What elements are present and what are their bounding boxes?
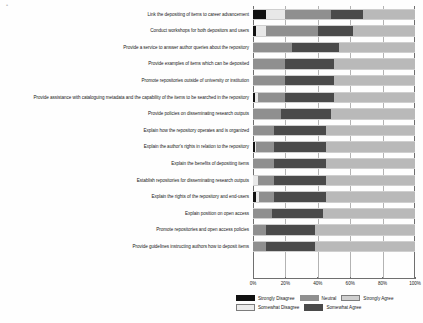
category-label: Promote repositories and open access pol… [0,227,253,232]
bar-segment-sa [315,225,415,234]
category-label: Link the depositing of items to career a… [0,12,253,17]
chart-row: Conduct workshops for both depositors an… [0,23,423,40]
x-axis: 0%20%40%60%80%100% [253,278,415,289]
likert-stacked-bar-chart: • Link the depositing of items to career… [0,0,423,323]
bar-track [253,191,415,202]
x-tick-label: 20% [281,281,290,286]
legend-item[interactable]: Neutral [300,295,337,301]
bar-segment-sa [334,76,415,85]
bar-track [253,224,415,235]
x-tick-label: 40% [313,281,322,286]
bar-segment-sa [334,59,415,68]
bar-segment-swa [266,242,315,251]
bar-segment-n [253,59,285,68]
chart-row: Explain the author's rights in relation … [0,139,423,156]
bar-segment-sa [334,93,415,102]
category-label: Provide a service to answer author queri… [0,45,253,50]
chart-row: Establish repositories for disseminating… [0,172,423,189]
bar-segment-swd [266,10,285,19]
chart-row: Link the depositing of items to career a… [0,6,423,23]
x-tick-label: 100% [409,281,421,286]
bar-segment-sa [326,142,415,151]
bar-segment-sa [326,176,415,185]
bar-segment-swa [292,43,339,52]
chart-row: Provide policies on disseminating resear… [0,106,423,123]
category-label: Establish repositories for disseminating… [0,178,253,183]
category-label: Explain the author's rights in relation … [0,144,253,149]
chart-row: Promote repositories and open access pol… [0,222,423,239]
legend-item[interactable]: Somewhat Agree [304,304,361,310]
category-label: Explain position on open access [0,211,253,216]
x-tick-label: 80% [378,281,387,286]
bar-track [253,92,415,103]
bar-segment-swa [281,109,331,118]
category-label: Promote repositories outside of universi… [0,78,253,83]
bar-track [253,25,415,36]
legend-item[interactable]: Strongly Agree [341,295,393,301]
bar-segment-n [258,176,274,185]
bar-segment-swa [274,142,326,151]
category-label: Explain the benefits of depositing items [0,161,253,166]
bar-track [253,42,415,53]
legend-swatch-sd [236,295,255,301]
bar-segment-swa [285,76,334,85]
bar-segment-n [253,159,274,168]
bar-segment-n [266,26,318,35]
legend-label: Neutral [322,296,337,301]
chart-row: Explain how the repository operates and … [0,122,423,139]
chart-row: Explain the benefits of depositing items [0,155,423,172]
bar-segment-n [253,43,292,52]
chart-row: Provide a service to answer author queri… [0,39,423,56]
chart-row: Explain position on open access [0,205,423,222]
bar-segment-swa [274,159,326,168]
bar-segment-sd [253,10,266,19]
bar-segment-sa [363,10,415,19]
legend-swatch-n [300,295,319,301]
category-label: Provide examples of items which can be d… [0,61,253,66]
x-tick [285,277,286,280]
bar-segment-sa [323,209,415,218]
bar-rows: Link the depositing of items to career a… [0,6,423,255]
category-label: Conduct workshops for both depositors an… [0,28,253,33]
legend-item[interactable]: Strongly Disagree [236,295,295,301]
category-label: Explain the rights of the repository and… [0,194,253,199]
bar-track [253,241,415,252]
legend-item[interactable]: Somewhat Disagree [236,304,299,310]
legend-swatch-swa [304,304,323,310]
category-label: Provide policies on disseminating resear… [0,111,253,116]
x-tick-label: 0% [250,281,257,286]
bar-segment-n [253,209,272,218]
bar-track [253,175,415,186]
legend-swatch-swd [236,304,255,310]
legend-label: Somewhat Agree [326,305,361,310]
category-label: Explain how the repository operates and … [0,128,253,133]
chart-legend: Strongly DisagreeNeutralStrongly AgreeSo… [236,295,422,314]
category-label: Provide assistance with cataloguing meta… [0,95,253,100]
bar-track [253,141,415,152]
category-label: Provide guidelines instructing authors h… [0,244,253,249]
bar-segment-swa [285,93,334,102]
legend-swatch-sa [341,295,360,301]
bar-segment-swa [285,59,334,68]
bar-track [253,75,415,86]
bar-segment-sa [326,192,415,201]
bar-segment-n [253,126,274,135]
legend-label: Strongly Disagree [258,296,295,301]
bar-segment-n [253,76,285,85]
x-tick [350,277,351,280]
bar-segment-n [253,242,266,251]
bar-segment-n [259,192,274,201]
chart-row: Promote repositories outside of universi… [0,72,423,89]
plot-area: Link the depositing of items to career a… [0,6,423,278]
bar-segment-n [253,109,281,118]
bar-track [253,125,415,136]
bar-track [253,58,415,69]
chart-row: Provide assistance with cataloguing meta… [0,89,423,106]
bar-segment-swa [274,192,326,201]
bar-segment-swa [274,126,326,135]
chart-row: Provide guidelines instructing authors h… [0,238,423,255]
bar-segment-sa [315,242,415,251]
x-tick-label: 60% [346,281,355,286]
bar-segment-swa [272,209,322,218]
chart-row: Provide examples of items which can be d… [0,56,423,73]
